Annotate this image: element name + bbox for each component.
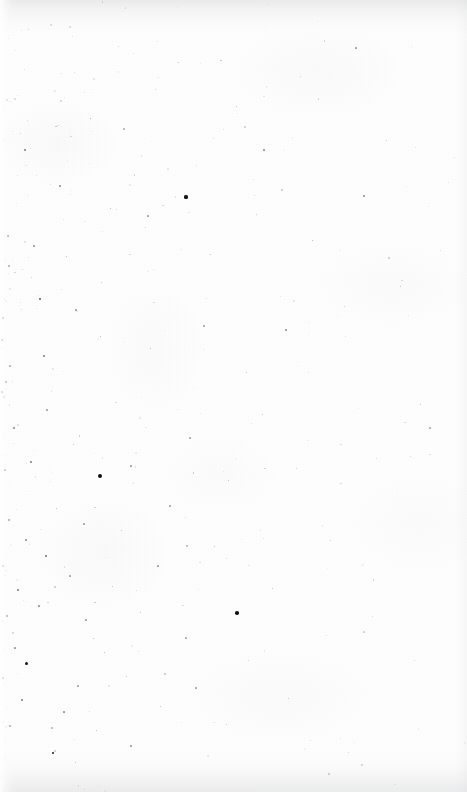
paper-background — [0, 0, 467, 792]
scanned-page — [0, 0, 467, 792]
